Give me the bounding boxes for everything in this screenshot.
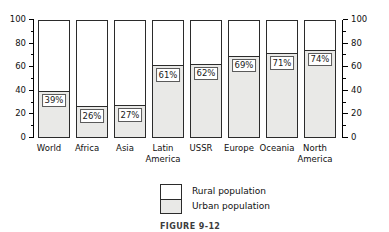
y-tick-right-30 — [343, 102, 346, 103]
y-tick-right-60 — [343, 66, 348, 67]
bar-value-label: 62% — [194, 67, 218, 81]
legend-swatch-stack — [160, 184, 182, 214]
bar-north-america: 74% — [304, 20, 336, 138]
y-ticklabel-right-60: 60 — [351, 62, 362, 71]
bar-ussr: 62% — [190, 20, 222, 138]
y-axis-right: 100 80 60 40 20 0 — [342, 20, 343, 138]
bar-segment-urban: 61% — [153, 65, 183, 137]
y-tick-right-90 — [343, 31, 346, 32]
y-tick-right-70 — [343, 54, 346, 55]
legend-labels: Rural population Urban population — [192, 184, 270, 214]
bar-value-label: 61% — [156, 68, 180, 82]
legend-swatch-urban — [161, 199, 181, 213]
y-ticklabel-left-20: 20 — [15, 109, 26, 118]
x-label-north-america: North America — [287, 143, 343, 164]
y-tick-right-20 — [343, 113, 348, 114]
bar-segment-urban: 27% — [115, 105, 145, 137]
bar-segment-urban: 26% — [77, 106, 107, 137]
bar-value-label: 39% — [42, 94, 66, 108]
bar-segment-urban: 62% — [191, 64, 221, 137]
y-tick-right-40 — [343, 90, 348, 91]
bar-value-label: 74% — [308, 53, 332, 67]
y-tick-right-50 — [343, 78, 346, 79]
bar-world: 39% — [38, 20, 70, 138]
y-ticklabel-left-100: 100 — [10, 15, 26, 24]
y-ticklabel-right-80: 80 — [351, 39, 362, 48]
legend-swatch-rural — [161, 185, 181, 199]
plot-area: 39% 26% 27% 61% 62% 69% — [33, 20, 342, 138]
y-tick-right-10 — [343, 125, 346, 126]
figure-stacked-bar-chart: 100 80 60 40 20 0 100 80 60 40 20 0 39% — [0, 0, 389, 232]
y-ticklabel-right-20: 20 — [351, 109, 362, 118]
bar-africa: 26% — [76, 20, 108, 138]
bar-value-label: 27% — [118, 108, 142, 122]
bar-segment-urban: 39% — [39, 91, 69, 137]
y-ticklabel-right-40: 40 — [351, 86, 362, 95]
bar-oceania: 71% — [266, 20, 298, 138]
y-ticklabel-left-80: 80 — [15, 39, 26, 48]
legend-label-urban: Urban population — [192, 199, 270, 214]
bar-latin-america: 61% — [152, 20, 184, 138]
figure-caption: FIGURE 9-12 — [160, 222, 220, 231]
y-ticklabel-left-60: 60 — [15, 62, 26, 71]
bar-europe: 69% — [228, 20, 260, 138]
bar-value-label: 71% — [270, 56, 294, 70]
bar-segment-urban: 74% — [305, 50, 335, 137]
y-ticklabel-left-40: 40 — [15, 86, 26, 95]
bar-asia: 27% — [114, 20, 146, 138]
y-tick-right-0 — [343, 137, 348, 138]
y-tick-right-100 — [343, 19, 348, 20]
bar-segment-urban: 69% — [229, 56, 259, 137]
y-ticklabel-right-100: 100 — [351, 15, 367, 24]
bar-segment-urban: 71% — [267, 53, 297, 137]
y-ticklabel-left-0: 0 — [21, 133, 26, 142]
bar-value-label: 69% — [232, 59, 256, 73]
y-ticklabel-right-0: 0 — [351, 133, 356, 142]
legend-label-rural: Rural population — [192, 184, 270, 199]
bar-value-label: 26% — [80, 109, 104, 123]
y-tick-right-80 — [343, 43, 348, 44]
